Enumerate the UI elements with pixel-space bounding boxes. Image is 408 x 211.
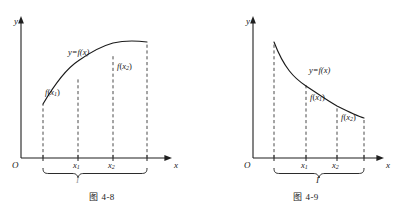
x-axis-label: x bbox=[386, 161, 390, 170]
y-axis-label: y bbox=[246, 17, 250, 26]
interval-brace-left bbox=[43, 168, 147, 178]
origin-label: O bbox=[12, 161, 19, 170]
interval-label-I: I bbox=[76, 176, 79, 185]
figure-4-8-graphic bbox=[0, 0, 204, 211]
x-tick-label-x1: x1 bbox=[301, 161, 308, 170]
value-label-f-x1: f(x1) bbox=[310, 93, 325, 102]
x-tick-label-x2: x2 bbox=[332, 161, 339, 170]
figure-4-8: y x O x1 x2 y=f(x) f(x1) f(x2) I 图 4-8 bbox=[0, 0, 204, 211]
y-axis-label: y bbox=[14, 17, 18, 26]
curve-label-y-equals-f-x: y=f(x) bbox=[68, 48, 89, 57]
x-axis-left bbox=[21, 155, 172, 161]
x-tick-label-x2: x2 bbox=[108, 161, 115, 170]
figure-4-9: y x O x1 x2 y=f(x) f(x1) f(x2) I 图 4-9 bbox=[204, 0, 408, 211]
y-axis-right bbox=[250, 16, 256, 158]
value-label-f-x1: f(x1) bbox=[45, 88, 60, 97]
interval-label-I: I bbox=[316, 176, 319, 185]
origin-label: O bbox=[244, 161, 251, 170]
x-axis-label: x bbox=[174, 161, 178, 170]
figure-4-9-graphic bbox=[204, 0, 408, 211]
interval-brace-right bbox=[274, 168, 364, 178]
x-tick-label-x1: x1 bbox=[73, 161, 80, 170]
curve-y-equals-f-x-right bbox=[274, 42, 364, 118]
y-axis-left bbox=[18, 16, 24, 158]
curve-label-y-equals-f-x: y=f(x) bbox=[309, 66, 330, 75]
value-label-f-x2: f(x2) bbox=[341, 113, 356, 122]
figure-caption: 图 4-9 bbox=[204, 190, 408, 203]
dashed-ordinates-left bbox=[43, 42, 147, 158]
figure-caption: 图 4-8 bbox=[0, 190, 204, 203]
value-label-f-x2: f(x2) bbox=[117, 62, 132, 71]
